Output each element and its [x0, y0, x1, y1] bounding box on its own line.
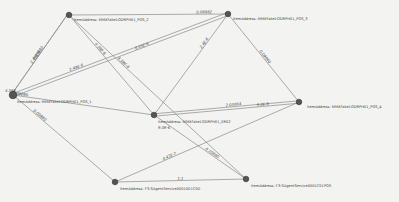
edge-weight-label: 2.03964	[225, 101, 242, 107]
node-marker[interactable]	[225, 11, 231, 17]
edge-weight-label: 4.38E	[5, 88, 16, 93]
node-label: ItemAddress: MMXFake1ODRPH01_POS_1	[17, 100, 92, 104]
nodes-layer: ItemAddress: MMXFake1ODRPH01_POS_2ItemAd…	[5, 11, 382, 191]
node-marker[interactable]	[296, 99, 302, 105]
graph-edge[interactable]	[154, 14, 228, 115]
node-label: ItemAddress: F3:SAgentService0001001C0D	[120, 187, 200, 191]
edge-weight-label: 0.08882	[196, 9, 212, 14]
edge-weight-label: 0.09880	[258, 49, 272, 65]
node-label: ItemAddress: MMXFake1ODRPH01_POS_3	[233, 17, 308, 21]
edge-weight-label: 2.4E-6	[198, 36, 210, 49]
node-label: ItemAddress: MMXFake1ODRPH01_POS_4	[307, 105, 382, 109]
edge-weight-label: 2.49E-6	[29, 49, 42, 64]
graph-node-pos3[interactable]: ItemAddress: MMXFake1ODRPH01_POS_3	[225, 11, 307, 21]
node-marker[interactable]	[112, 179, 118, 185]
edges-layer: 0.088820.098802.49E-64.38E-64.38E-68.05E…	[12, 9, 299, 182]
edge-weight-label: 8.05E-6	[134, 41, 150, 51]
network-graph: 0.088820.098802.49E-64.38E-64.38E-68.05E…	[0, 0, 399, 202]
graph-node-pos4[interactable]: ItemAddress: MMXFake1ODRPH01_POS_4	[296, 99, 382, 109]
graph-edge[interactable]	[12, 13, 227, 94]
edge-weight-label: 4.38E-6	[117, 56, 132, 70]
graph-node-agent2[interactable]: ItemAddress: F3:SAgentService0001C01POS	[243, 176, 332, 188]
graph-edge[interactable]	[14, 15, 229, 96]
edge-weight-label: 0.09880	[32, 108, 48, 122]
node-label: ItemAddress: MMXFake1ODRPH01_POS_2	[74, 18, 149, 22]
edge-weight-label: 4.43E-7	[162, 150, 178, 161]
edge-weight-label: 1.1	[177, 176, 183, 181]
node-label: ItemAddress: F3:SAgentService0001C01POS	[251, 184, 332, 188]
graph-edge[interactable]	[115, 102, 299, 182]
node-marker[interactable]	[151, 112, 157, 118]
node-label: ItemAddress: MMXFake1ODRPH01_ER02	[158, 120, 231, 124]
graph-canvas: 0.088820.098802.49E-64.38E-64.38E-68.05E…	[0, 0, 399, 202]
node-marker[interactable]	[66, 12, 72, 18]
edge-weight-label: 9.3E-6	[158, 125, 171, 130]
graph-node-er02[interactable]: ItemAddress: MMXFake1ODRPH01_ER02	[151, 112, 230, 124]
graph-edge[interactable]	[13, 95, 115, 182]
graph-node-pos2[interactable]: ItemAddress: MMXFake1ODRPH01_POS_2	[66, 12, 148, 22]
node-marker[interactable]	[243, 176, 249, 182]
